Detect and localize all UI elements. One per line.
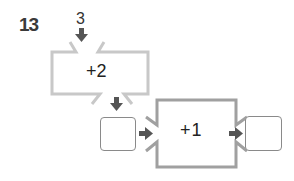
machine-1-operation: +2 (86, 61, 107, 82)
right-arrow-icon (139, 127, 153, 140)
machine-2-operation: +1 (180, 120, 203, 141)
start-value: 3 (76, 10, 85, 28)
right-arrow-icon (229, 127, 243, 140)
answer-box-2[interactable] (245, 116, 282, 151)
flow-diagram (0, 0, 294, 181)
answer-box-1[interactable] (100, 117, 136, 151)
down-arrow-icon (110, 97, 123, 111)
problem-number: 13 (19, 14, 38, 36)
down-arrow-icon (75, 28, 88, 42)
